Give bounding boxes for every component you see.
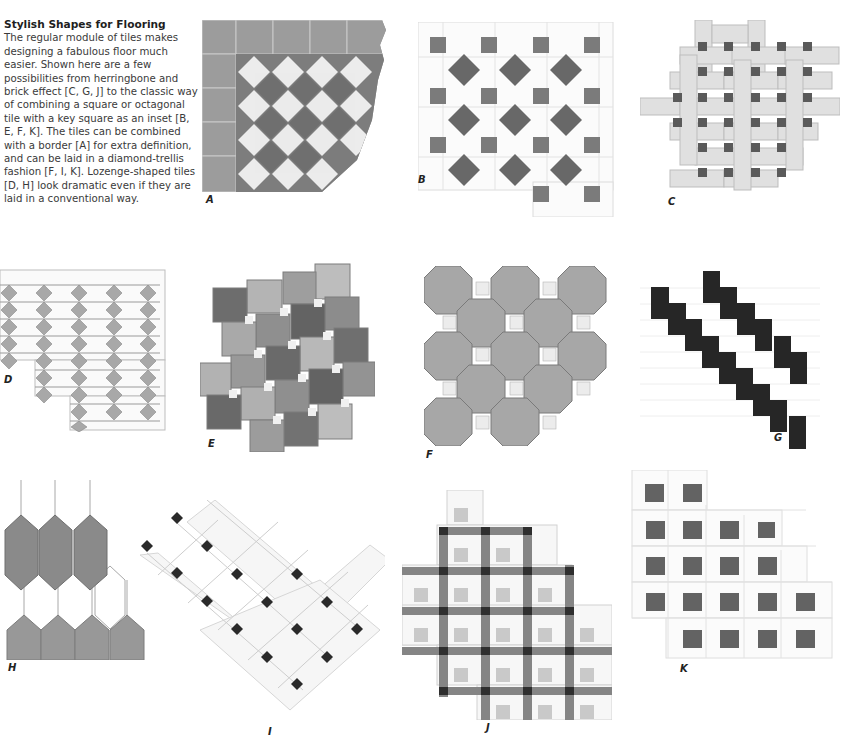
figure-label-f: F — [426, 449, 433, 460]
figure-h: H — [4, 480, 154, 660]
figure-f: F — [424, 266, 609, 446]
tile-pattern-e-image — [200, 262, 375, 452]
tile-pattern-k-image — [626, 470, 836, 660]
figure-d: D — [0, 262, 170, 432]
figure-label-a: A — [206, 194, 214, 205]
figure-b: B — [418, 22, 618, 217]
tile-pattern-b-image — [418, 22, 618, 217]
figure-e: E — [200, 262, 375, 452]
tile-pattern-j-image — [402, 490, 612, 720]
figure-label-h: H — [8, 662, 16, 673]
figure-label-i: I — [268, 726, 272, 737]
figure-k: K — [626, 470, 836, 660]
article-body: The regular module of tiles makes design… — [4, 31, 200, 205]
figure-g: G — [640, 270, 820, 455]
figure-i: I — [140, 500, 385, 725]
figure-label-c: C — [668, 196, 675, 207]
tile-pattern-h-image — [4, 480, 154, 660]
figure-j: J — [402, 490, 612, 720]
tile-pattern-g-image — [640, 270, 820, 455]
tile-pattern-d-image — [0, 262, 170, 432]
tile-pattern-f-image — [424, 266, 609, 446]
figure-label-j: J — [486, 722, 490, 733]
tile-pattern-c-image — [640, 20, 840, 195]
figure-a: A — [202, 20, 387, 192]
figure-label-e: E — [208, 438, 215, 449]
figure-label-g: G — [774, 432, 782, 443]
article-text: Stylish Shapes for Flooring The regular … — [4, 18, 200, 206]
figure-label-k: K — [680, 663, 688, 674]
figure-c: C — [640, 20, 840, 195]
figure-label-d: D — [4, 374, 12, 385]
figure-label-b: B — [418, 174, 426, 185]
tile-pattern-a-image — [202, 20, 387, 192]
article-title: Stylish Shapes for Flooring — [4, 18, 200, 31]
tile-pattern-i-image — [140, 500, 385, 725]
